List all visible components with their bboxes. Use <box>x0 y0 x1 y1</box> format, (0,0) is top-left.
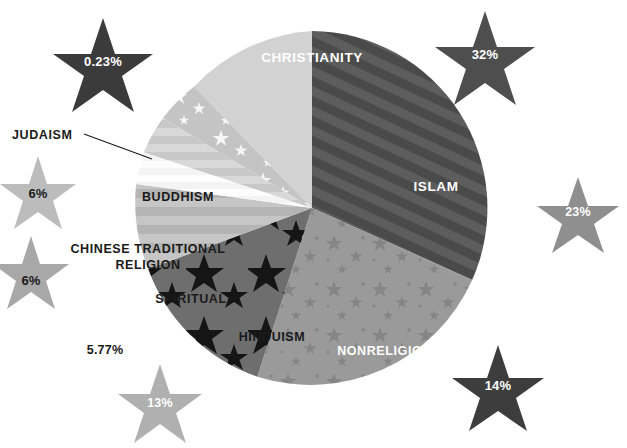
percent-badge-christianity[interactable]: 32% <box>435 11 535 105</box>
pie-slices <box>135 31 487 385</box>
percent-badge-islam[interactable]: 23% <box>537 177 619 253</box>
religion-pie-chart: CHRISTIANITY ISLAM NONRELIGIOUS HINDUISM… <box>0 0 627 448</box>
infographic-canvas: CHRISTIANITY ISLAM NONRELIGIOUS HINDUISM… <box>0 0 627 448</box>
percent-badge-buddhism[interactable]: 6% <box>0 156 76 229</box>
percent-badge-hinduism[interactable]: 13% <box>118 364 202 443</box>
percent-badge-nonreligious[interactable]: 14% <box>452 345 544 431</box>
callout-label-judaism: JUDAISM <box>12 128 72 142</box>
percent-badge-spiritual[interactable]: 5.77% <box>67 316 143 387</box>
percent-badge-judaism[interactable]: 0.23% <box>53 18 153 112</box>
judaism-leader-line <box>84 134 152 159</box>
percent-badge-chinese-traditional-religion[interactable]: 6% <box>0 236 69 309</box>
